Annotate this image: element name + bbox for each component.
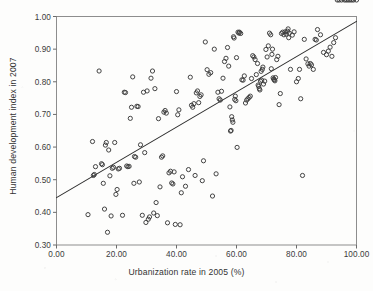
plot-frame [57, 17, 357, 246]
scatter-plot-figure: 0.0020.0040.0060.0080.00100.000.300.400.… [0, 0, 373, 291]
data-point-markers [86, 0, 359, 234]
x-tick-label: 60.00 [226, 250, 247, 259]
x-tick-label: 0.00 [48, 250, 64, 259]
y-tick-label: 0.30 [18, 241, 51, 250]
y-tick-label: 0.60 [18, 143, 51, 152]
y-tick-label: 0.50 [18, 175, 51, 184]
y-tick-label: 0.90 [18, 45, 51, 54]
y-axis-title: Human development index in 2007 [8, 46, 18, 206]
y-tick-label: 1.00 [18, 12, 51, 21]
x-axis-title: Urbanization rate in 2005 (%) [0, 267, 373, 277]
y-tick-label: 0.70 [18, 110, 51, 119]
y-tick-label: 0.40 [18, 208, 51, 217]
regression-line [57, 21, 357, 197]
y-axis-tick-marks [53, 17, 57, 246]
x-tick-label: 40.00 [166, 250, 187, 259]
x-tick-label: 20.00 [106, 250, 127, 259]
x-tick-label: 80.00 [286, 250, 307, 259]
plot-canvas [0, 0, 373, 291]
x-tick-label: 100.00 [344, 250, 370, 259]
y-tick-label: 0.80 [18, 77, 51, 86]
x-axis-tick-marks [57, 245, 357, 249]
